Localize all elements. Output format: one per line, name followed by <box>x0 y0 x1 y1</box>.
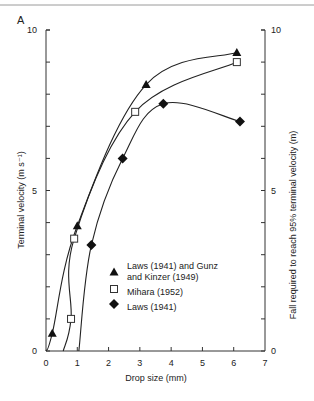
axes: 0123456700551010 <box>27 25 281 368</box>
x-tick-label: 5 <box>200 358 205 368</box>
x-tick-label: 2 <box>106 358 111 368</box>
square-marker <box>233 59 240 66</box>
legend-marker-icon <box>110 268 119 276</box>
x-tick-label: 6 <box>231 358 236 368</box>
y-tick-label-left: 0 <box>32 346 37 356</box>
square-marker <box>68 315 75 322</box>
x-tick-label: 7 <box>262 358 267 368</box>
diamond-marker <box>86 240 96 250</box>
y-tick-label-left: 5 <box>32 186 37 196</box>
legend-label: and Kinzer (1949) <box>127 272 199 282</box>
chart: 0123456700551010 Laws (1941) and Gunzand… <box>0 0 314 401</box>
triangle-marker <box>48 329 57 337</box>
triangle-marker <box>232 48 241 56</box>
x-tick-label: 4 <box>169 358 174 368</box>
x-tick-label: 0 <box>43 358 48 368</box>
x-tick-label: 1 <box>75 358 80 368</box>
y-axis-title-right: Fall required to reach 95% terminal velo… <box>288 131 298 320</box>
diamond-marker <box>235 116 245 126</box>
x-tick-label: 3 <box>137 358 142 368</box>
diamond-marker <box>158 99 168 109</box>
legend-marker-icon <box>109 299 119 309</box>
diamond-marker <box>118 153 128 163</box>
y-tick-label-right: 10 <box>271 25 281 35</box>
y-axis-title-left: Terminal velocity (m s⁻¹) <box>16 151 26 249</box>
legend-marker-icon <box>111 286 118 293</box>
square-marker <box>71 235 78 242</box>
legend-label: Laws (1941) and Gunz <box>127 261 219 271</box>
y-tick-label-left: 10 <box>27 25 37 35</box>
legend-label: Laws (1941) <box>127 302 177 312</box>
legend: Laws (1941) and Gunzand Kinzer (1949)Mih… <box>109 261 219 312</box>
y-tick-label-right: 5 <box>271 186 276 196</box>
series-curve <box>79 103 240 351</box>
triangle-marker <box>73 221 82 229</box>
x-axis-title: Drop size (mm) <box>125 373 187 383</box>
legend-label: Mihara (1952) <box>127 287 183 297</box>
panel-label: A <box>17 14 25 26</box>
square-marker <box>132 108 139 115</box>
y-tick-label-right: 0 <box>271 346 276 356</box>
